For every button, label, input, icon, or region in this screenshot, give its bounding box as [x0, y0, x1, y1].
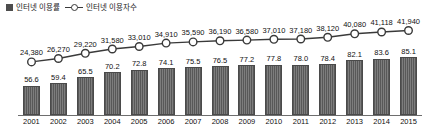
x-axis-labels: 2001200220032004200520062007200820092010…	[18, 116, 422, 132]
line-marker	[378, 28, 386, 36]
line-marker	[109, 45, 117, 53]
line-marker	[270, 36, 278, 44]
x-axis-label: 2011	[288, 117, 314, 126]
line-marker	[28, 58, 36, 66]
line-value-label: 41,940	[392, 17, 426, 26]
x-axis-label: 2003	[72, 117, 98, 126]
x-axis-label: 2015	[396, 117, 422, 126]
line-marker	[243, 36, 251, 44]
x-axis-label: 2002	[45, 117, 71, 126]
x-axis-label: 2008	[207, 117, 233, 126]
x-axis-label: 2009	[234, 117, 260, 126]
x-axis-label: 2013	[342, 117, 368, 126]
x-axis-label: 2007	[180, 117, 206, 126]
line-marker	[216, 37, 224, 45]
x-axis-label: 2004	[99, 117, 125, 126]
line-marker	[189, 38, 197, 46]
line-marker	[55, 55, 63, 63]
internet-usage-chart: 인터넷 이용률 인터넷 이용자수 56.659.465.570.272.874.…	[0, 0, 428, 133]
x-axis-label: 2010	[261, 117, 287, 126]
x-axis-label: 2005	[126, 117, 152, 126]
plot-area: 56.659.465.570.272.874.175.576.577.277.8…	[0, 0, 428, 133]
line-marker	[351, 30, 359, 38]
line-marker	[82, 50, 90, 58]
x-axis-label: 2014	[369, 117, 395, 126]
line-marker	[324, 34, 332, 42]
line-marker	[297, 35, 305, 43]
line-marker	[135, 43, 143, 51]
x-axis-label: 2006	[153, 117, 179, 126]
line-marker	[162, 39, 170, 47]
line-marker	[405, 27, 413, 35]
x-axis-label: 2001	[18, 117, 44, 126]
x-axis-label: 2012	[315, 117, 341, 126]
